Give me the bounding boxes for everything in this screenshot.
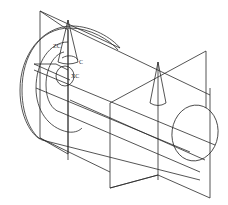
cylinder-end-ellipse	[168, 102, 221, 164]
cad-viewport[interactable]: ZC C XC	[0, 0, 228, 205]
flange-circles	[20, 26, 120, 140]
label-c: C	[79, 59, 83, 65]
cylinder-body	[34, 28, 215, 180]
label-zc: ZC	[53, 43, 61, 49]
direction-cone-left	[58, 20, 78, 160]
datum-plane-left[interactable]	[40, 11, 120, 172]
wireframe-drawing: ZC C XC	[0, 0, 228, 205]
label-xc: XC	[71, 73, 79, 79]
